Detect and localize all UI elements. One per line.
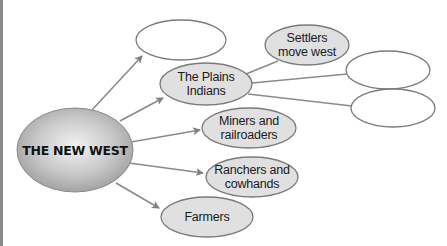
arrow-to-miners bbox=[131, 130, 200, 142]
node-label-ranchers: Ranchers and cowhands bbox=[214, 163, 289, 191]
arrow-to-plains-indians bbox=[120, 98, 163, 121]
node-blank-right-1 bbox=[346, 51, 430, 89]
arrow-to-blank-top bbox=[92, 56, 142, 110]
node-label-farmers: Farmers bbox=[184, 210, 229, 224]
line-to-blank-right-2 bbox=[248, 94, 352, 106]
node-label-settlers: Settlers move west bbox=[278, 31, 336, 59]
node-blank-top bbox=[136, 20, 226, 60]
arrow-to-ranchers bbox=[129, 163, 203, 173]
node-label-plains-indians: The Plains Indians bbox=[177, 70, 234, 98]
arrow-to-farmers bbox=[116, 183, 159, 208]
line-to-blank-right-1 bbox=[252, 74, 347, 83]
center-node-label: THE NEW WEST bbox=[22, 143, 127, 158]
line-to-settlers bbox=[246, 61, 278, 74]
node-blank-right-2 bbox=[351, 89, 435, 127]
node-label-miners: Miners and railroaders bbox=[219, 114, 279, 142]
connector-lines bbox=[246, 61, 352, 106]
